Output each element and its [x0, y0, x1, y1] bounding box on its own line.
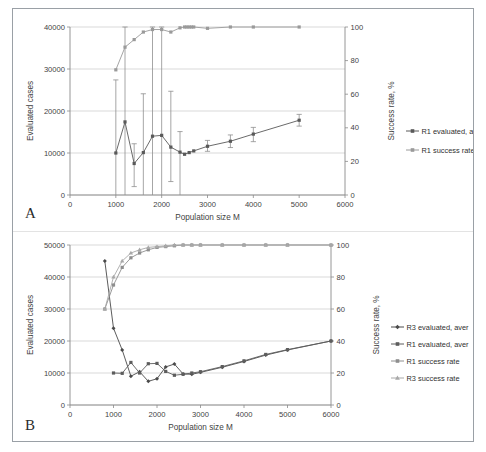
y-tick-label-right: 0: [337, 401, 341, 410]
data-point-marker: [252, 25, 255, 28]
y-tick-label-left: 40000: [44, 273, 65, 282]
data-point-marker: [329, 339, 332, 342]
legend-label: R1 success rate, %: [422, 146, 474, 155]
y-axis-title-right: Success rate, %: [387, 81, 396, 140]
chart-b-canvas: 0100002000030000400005000002040608010001…: [13, 231, 473, 441]
legend-label: R3 evaluated, aver: [407, 323, 470, 332]
panel-b-label: B: [25, 417, 35, 434]
data-point-marker: [252, 133, 255, 136]
series-2: [112, 339, 333, 376]
x-tick-label: 6000: [323, 410, 340, 419]
data-point-marker: [142, 30, 145, 33]
panel-a-label: A: [25, 205, 36, 222]
x-tick-label: 4000: [245, 200, 262, 209]
legend-label: R1 success rate: [407, 357, 460, 366]
data-point-marker: [178, 26, 181, 29]
gridlines: [70, 27, 345, 195]
legend-item-1[interactable]: R1 evaluated, aver.: [406, 127, 473, 136]
legend-item-2[interactable]: R1 success rate, %: [406, 146, 473, 155]
legend-item-3[interactable]: R1 success rate: [391, 357, 460, 366]
y-axis-left-ticks: 010000200003000040000: [44, 23, 70, 200]
y-tick-label-right: 100: [351, 23, 364, 32]
series-line: [114, 341, 332, 375]
data-point-marker: [138, 251, 141, 254]
data-point-marker: [138, 371, 141, 374]
data-point-marker: [188, 151, 191, 154]
data-point-marker: [160, 28, 163, 31]
data-point-marker: [142, 151, 145, 154]
x-tick-label: 1000: [105, 410, 122, 419]
legend-label: R1 evaluated, aver.: [422, 127, 474, 136]
data-point-marker: [190, 371, 193, 374]
y-tick-label-right: 0: [351, 191, 355, 200]
data-point-marker: [103, 259, 107, 263]
legend-marker-icon: [411, 129, 415, 133]
data-point-marker: [133, 162, 136, 165]
data-point-marker: [199, 370, 202, 373]
series-line: [105, 261, 331, 381]
data-point-marker: [206, 145, 209, 148]
x-tick-label: 4000: [236, 410, 253, 419]
y-tick-label-left: 0: [61, 191, 65, 200]
data-point-marker: [164, 370, 167, 373]
y-tick-label-right: 60: [337, 305, 345, 314]
data-point-marker: [121, 266, 124, 269]
legend-item-1[interactable]: R3 evaluated, aver: [391, 323, 469, 332]
y-tick-label-left: 30000: [44, 65, 65, 74]
legend-label: R3 success rate: [407, 374, 460, 383]
x-tick-label: 5000: [279, 410, 296, 419]
x-tick-label: 0: [68, 200, 72, 209]
y-tick-label-left: 10000: [44, 149, 65, 158]
y-tick-label-left: 0: [61, 401, 65, 410]
y-tick-label-right: 40: [337, 337, 345, 346]
legend: R3 evaluated, averR1 evaluated, averR1 s…: [391, 323, 469, 383]
data-point-marker: [114, 151, 117, 154]
data-point-marker: [151, 135, 154, 138]
legend-label: R1 evaluated, aver: [407, 340, 470, 349]
x-tick-label: 6000: [337, 200, 354, 209]
data-point-marker: [182, 373, 185, 376]
x-tick-label: 5000: [291, 200, 308, 209]
y-tick-label-left: 50000: [44, 241, 65, 250]
data-point-marker: [221, 365, 224, 368]
x-axis-ticks: 0100020003000400050006000: [68, 405, 340, 419]
legend-marker-icon: [395, 325, 399, 329]
data-point-marker: [229, 140, 232, 143]
legend-item-4[interactable]: R3 success rate: [391, 374, 460, 383]
legend-marker-icon: [396, 359, 400, 363]
x-axis-title: Population size M: [175, 213, 240, 222]
data-point-marker: [206, 27, 209, 30]
x-axis-title: Population size M: [168, 423, 233, 432]
y-tick-label-left: 10000: [44, 369, 65, 378]
data-point-marker: [121, 372, 124, 375]
series-1: [103, 259, 333, 383]
y-axis-right-ticks: 020406080100: [345, 23, 363, 200]
data-point-marker: [192, 149, 195, 152]
x-tick-label: 2000: [149, 410, 166, 419]
data-point-marker: [147, 362, 150, 365]
data-point-marker: [120, 348, 124, 352]
legend-marker-icon: [396, 342, 400, 346]
data-point-marker: [229, 25, 232, 28]
x-axis-ticks: 0100020003000400050006000: [68, 195, 354, 209]
data-point-marker: [160, 134, 163, 137]
y-tick-label-left: 20000: [44, 107, 65, 116]
gridlines: [70, 245, 331, 405]
x-tick-label: 3000: [192, 410, 209, 419]
y-tick-label-right: 80: [351, 56, 359, 65]
chart-panel-b: 0100002000030000400005000002040608010001…: [13, 231, 473, 441]
data-point-marker: [192, 25, 195, 28]
y-tick-label-right: 80: [337, 273, 345, 282]
y-tick-label-right: 40: [351, 123, 359, 132]
legend-item-2[interactable]: R1 evaluated, aver: [391, 340, 469, 349]
data-point-marker: [129, 256, 132, 259]
data-point-marker: [114, 68, 117, 71]
y-axis-title-right: Success rate, %: [372, 295, 381, 354]
data-point-marker: [169, 146, 172, 149]
y-tick-label-left: 20000: [44, 337, 65, 346]
y-axis-right-ticks: 020406080100: [331, 241, 349, 410]
data-point-marker: [151, 28, 154, 31]
y-tick-label-left: 40000: [44, 23, 65, 32]
y-tick-label-right: 60: [351, 90, 359, 99]
series-2: [114, 25, 301, 71]
